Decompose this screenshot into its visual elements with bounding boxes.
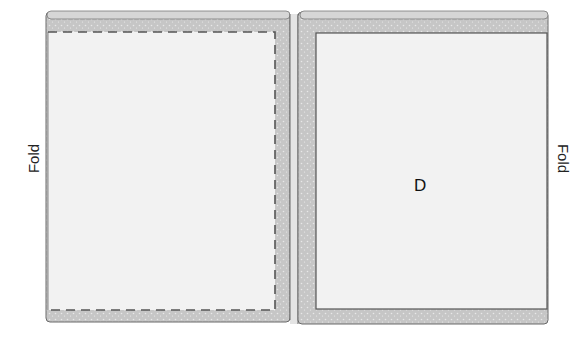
right-panel: [298, 11, 548, 324]
piece-letter: D: [414, 176, 426, 196]
diagram-canvas: [0, 0, 578, 341]
center-seam: [290, 14, 298, 324]
fold-label-left: Fold: [25, 144, 42, 173]
left-panel: [46, 11, 290, 322]
fold-label-right: Fold: [555, 144, 572, 173]
sewing-diagram: Fold Fold D: [0, 0, 578, 341]
